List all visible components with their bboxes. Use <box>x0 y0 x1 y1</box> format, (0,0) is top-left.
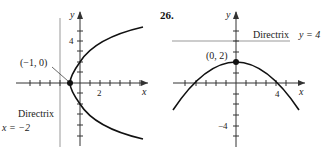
y-tick-label: −4 <box>218 121 228 131</box>
y-tick-label: 4 <box>69 36 74 46</box>
y-axis-label: y <box>225 9 231 20</box>
directrix-equation: x = −2 <box>1 122 30 133</box>
right-graph: 26. y x 4 −4 (0, 2) Directrix y = 4 <box>160 9 320 147</box>
vertex-label: (−1, 0) <box>20 57 47 69</box>
x-axis-label: x <box>141 86 147 97</box>
left-graph: y x 2 4 (−1, 0) Directrix x = −2 <box>1 9 148 147</box>
y-axis-arrow-icon <box>77 11 83 19</box>
problem-number: 26. <box>160 9 174 21</box>
x-tick-label: 2 <box>97 88 102 98</box>
vertex-label: (0, 2) <box>206 50 228 62</box>
x-axis-label: x <box>298 86 304 97</box>
directrix-label: Directrix <box>18 108 54 119</box>
directrix-label: Directrix <box>253 29 289 40</box>
figure: y x 2 4 (−1, 0) Directrix x = −2 26. <box>0 0 323 159</box>
y-axis-arrow-icon <box>233 11 239 19</box>
directrix-equation: y = 4 <box>298 29 320 40</box>
vertex-point <box>233 59 239 65</box>
x-tick-label: 4 <box>275 89 280 99</box>
y-axis-label: y <box>69 9 75 20</box>
